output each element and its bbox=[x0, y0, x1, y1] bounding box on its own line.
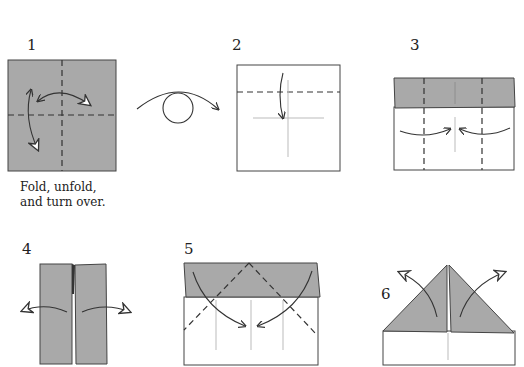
step-5-figure bbox=[184, 263, 320, 365]
caption-line-2: and turn over. bbox=[20, 195, 106, 210]
step-6-figure bbox=[383, 265, 515, 365]
caption-line-1: Fold, unfold, bbox=[20, 180, 106, 195]
step-number-6: 6 bbox=[381, 285, 391, 303]
step-3-figure bbox=[394, 78, 515, 170]
step-number-5: 5 bbox=[184, 240, 194, 258]
step-4-figure bbox=[22, 264, 130, 364]
step-1-caption: Fold, unfold, and turn over. bbox=[20, 180, 106, 210]
step-number-1: 1 bbox=[27, 36, 37, 54]
turn-over-icon bbox=[137, 92, 218, 123]
step-number-2: 2 bbox=[232, 36, 242, 54]
step-number-4: 4 bbox=[22, 240, 32, 258]
origami-diagram: 1 Fold, unfold, and turn over. 2 3 4 5 6 bbox=[0, 0, 524, 367]
step-2-figure bbox=[237, 65, 340, 171]
step-1-figure bbox=[8, 60, 116, 171]
step-number-3: 3 bbox=[410, 36, 420, 54]
